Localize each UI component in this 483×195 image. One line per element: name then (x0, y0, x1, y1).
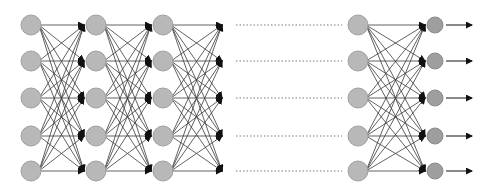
output-neuron-node (427, 163, 443, 179)
output-neuron-node (427, 90, 443, 106)
output-arrows (446, 25, 472, 171)
hidden-neuron-node (86, 126, 106, 146)
ellipsis-dotted-lines (236, 25, 342, 171)
hidden-neuron-node (348, 88, 368, 108)
hidden-neuron-node (86, 88, 106, 108)
hidden-neuron-node (21, 161, 41, 181)
hidden-neuron-node (348, 51, 368, 71)
hidden-neuron-node (21, 126, 41, 146)
hidden-neuron-node (86, 161, 106, 181)
hidden-neuron-node (86, 15, 106, 35)
hidden-neuron-node (21, 88, 41, 108)
hidden-neuron-node (86, 51, 106, 71)
output-neuron-node (427, 128, 443, 144)
hidden-neuron-node (348, 15, 368, 35)
neural-network-diagram (0, 0, 483, 195)
hidden-neuron-node (153, 88, 173, 108)
hidden-neuron-node (348, 126, 368, 146)
hidden-neuron-node (153, 161, 173, 181)
output-neuron-node (427, 53, 443, 69)
hidden-neuron-node (348, 161, 368, 181)
hidden-neuron-node (153, 126, 173, 146)
hidden-neuron-node (153, 15, 173, 35)
hidden-neuron-node (153, 51, 173, 71)
hidden-neuron-node (21, 51, 41, 71)
hidden-neuron-node (21, 15, 41, 35)
output-neuron-node (427, 17, 443, 33)
